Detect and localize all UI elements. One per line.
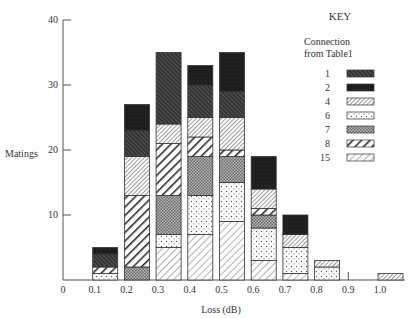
x-tick-label: 0.7 — [279, 284, 292, 295]
bar-segment-2 — [188, 66, 213, 86]
bar-segment-15 — [188, 235, 213, 281]
legend-swatch-7 — [347, 126, 374, 133]
y-tick-label: 40 — [48, 14, 58, 25]
x-tick-label: 0.3 — [152, 284, 165, 295]
legend-swatch-4 — [347, 98, 374, 105]
bar-segment-4 — [378, 274, 403, 281]
bar-segment-1 — [188, 85, 213, 118]
legend-swatch-1 — [347, 70, 374, 77]
bar-segment-4 — [283, 235, 308, 248]
bar-segment-4 — [220, 118, 245, 151]
bar-segment-7 — [251, 215, 276, 228]
bar-segment-7 — [156, 196, 181, 235]
legend-label: 1 — [325, 68, 330, 79]
bar-segment-1 — [93, 254, 118, 267]
legend-label: 8 — [325, 138, 330, 149]
bar-segment-6 — [220, 183, 245, 222]
bar-segment-8 — [188, 137, 213, 157]
bar-segment-2 — [283, 215, 308, 235]
legend-label: 2 — [325, 82, 330, 93]
bar-segment-7 — [188, 157, 213, 196]
bar-segment-15 — [251, 261, 276, 281]
legend-label: 4 — [325, 96, 330, 107]
x-tick-label: 0 — [61, 284, 66, 295]
bar-segment-6 — [93, 274, 118, 281]
legend-label: 6 — [325, 110, 330, 121]
bar-segment-6 — [315, 267, 340, 280]
bar-segment-6 — [156, 235, 181, 248]
legend-swatch-15 — [347, 154, 374, 161]
bar-segment-2 — [220, 53, 245, 92]
bar-segment-7 — [220, 157, 245, 183]
legend-subtitle: from Table1 — [304, 48, 353, 59]
bar-segment-8 — [220, 150, 245, 157]
bar-segment-8 — [251, 209, 276, 216]
bar-segment-1 — [156, 53, 181, 125]
bar-segment-7 — [124, 267, 149, 280]
legend-swatch-2 — [347, 84, 374, 91]
x-tick-label: 1.0 — [374, 284, 387, 295]
bar-segment-4 — [315, 261, 340, 268]
bar-segment-2 — [93, 248, 118, 255]
legend-subtitle: Connection — [304, 36, 350, 47]
y-tick-label: 30 — [48, 79, 58, 90]
bar-segment-4 — [188, 118, 213, 138]
bar-segment-4 — [124, 157, 149, 196]
x-tick-label: 0.2 — [120, 284, 133, 295]
legend-label: 15 — [320, 152, 330, 163]
stacked-bar-chart: 10203040Matings00.10.20.30.40.50.60.70.8… — [0, 0, 411, 318]
bar-segment-2 — [251, 157, 276, 190]
bar-segment-15 — [220, 222, 245, 281]
legend-swatch-8 — [347, 140, 374, 147]
y-tick-label: 10 — [48, 209, 58, 220]
bar-segment-1 — [220, 92, 245, 118]
x-tick-label: 0.8 — [310, 284, 323, 295]
legend-title: KEY — [329, 10, 352, 22]
legend-label: 7 — [325, 124, 330, 135]
bar-segment-8 — [124, 196, 149, 268]
x-tick-label: 0.4 — [184, 284, 197, 295]
bar-segment-4 — [156, 124, 181, 144]
legend-swatch-6 — [347, 112, 374, 119]
y-axis-label: Matings — [5, 148, 38, 159]
bar-segment-6 — [188, 196, 213, 235]
x-tick-label: 0.9 — [342, 284, 355, 295]
legend: KEYConnectionfrom Table112467815 — [304, 10, 374, 163]
y-tick-label: 20 — [48, 144, 58, 155]
x-tick-label: 0.6 — [247, 284, 260, 295]
bar-segment-15 — [156, 248, 181, 281]
bar-segment-1 — [124, 131, 149, 157]
bar-segment-6 — [251, 228, 276, 261]
bar-segment-4 — [251, 189, 276, 209]
bar-segment-2 — [124, 105, 149, 131]
x-axis-label: Loss (dB) — [201, 304, 241, 316]
bar-segment-8 — [93, 267, 118, 274]
x-tick-label: 0.1 — [88, 284, 101, 295]
bar-segment-8 — [156, 144, 181, 196]
bar-segment-6 — [283, 248, 308, 274]
bar-segment-15 — [283, 274, 308, 281]
x-tick-label: 0.5 — [215, 284, 228, 295]
